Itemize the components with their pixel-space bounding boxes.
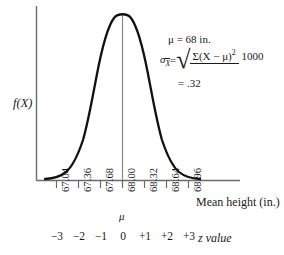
z-tick-label: +3 xyxy=(178,231,200,243)
radical-icon: √ xyxy=(176,48,190,73)
z-tick-label: +2 xyxy=(156,231,178,243)
sigma-subscript: X xyxy=(165,59,170,68)
y-axis-label: f(X) xyxy=(13,97,32,110)
x-tick-label: 67.04 xyxy=(61,168,72,192)
z-tick-label: 0 xyxy=(112,231,134,243)
mu-axis-marker: μ xyxy=(119,211,125,222)
z-axis-title-text: z value xyxy=(198,231,232,245)
fraction-numerator: Σ(X − μ)2 xyxy=(190,50,239,64)
fraction: Σ(X − μ)2 1000 xyxy=(190,48,264,73)
z-axis-title: z value xyxy=(198,232,232,244)
x-tick-label: 68.00 xyxy=(127,168,138,192)
standard-error-formula: σX= √ Σ(X − μ)2 1000 xyxy=(160,48,263,73)
fraction-denominator: 1000 xyxy=(241,49,263,62)
standard-error-result: = .32 xyxy=(178,77,263,89)
x-axis-title: Mean height (in.) xyxy=(196,196,280,208)
sigma-symbol: σX xyxy=(160,53,170,68)
z-tick-label: +1 xyxy=(134,231,156,243)
x-tick-label: 67.68 xyxy=(105,168,116,192)
x-tick-label: 68.96 xyxy=(193,168,204,192)
x-tick-label: 68.32 xyxy=(149,168,160,192)
z-tick-label: −1 xyxy=(90,231,112,243)
z-tick-label: −3 xyxy=(46,231,68,243)
mean-annotation: μ = 68 in. xyxy=(168,33,263,45)
x-tick-label: 67.36 xyxy=(83,168,94,192)
numerator-exponent: 2 xyxy=(232,48,236,57)
statistics-annotation: μ = 68 in. σX= √ Σ(X − μ)2 1000 = .32 xyxy=(160,33,263,89)
normal-distribution-figure: f(X) 67.04 67.36 67.68 68.00 68.32 68.64… xyxy=(0,0,284,255)
x-tick-label: 68.64 xyxy=(171,168,182,192)
x-axis-ticks xyxy=(57,181,189,189)
z-tick-label: −2 xyxy=(68,231,90,243)
square-root: √ Σ(X − μ)2 1000 xyxy=(176,48,263,73)
